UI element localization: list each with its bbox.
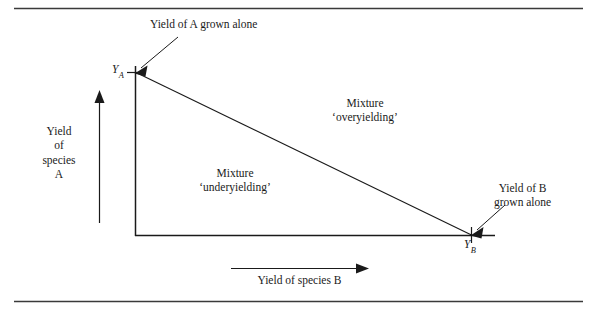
annotation-underyielding-line-2: ‘underyielding’ xyxy=(180,180,290,194)
ya-subscript: A xyxy=(119,71,124,80)
y-axis-label-line-3: species xyxy=(31,153,87,167)
annotation-underyielding-line-1: Mixture xyxy=(180,166,290,180)
pointer-to-yb-arrowhead xyxy=(471,227,484,239)
diagram-canvas xyxy=(0,0,595,314)
x-axis-tick-label-yb: YB xyxy=(464,238,476,254)
figure-page: Yield of A grown alone Yield of B grown … xyxy=(0,0,595,314)
y-axis-label-line-1: Yield xyxy=(31,124,87,138)
annotation-yield-of-b-grown-alone: Yield of B grown alone xyxy=(494,181,551,209)
x-direction-arrowhead xyxy=(356,264,369,274)
annotation-yield-of-b-line-1: Yield of B xyxy=(494,181,551,195)
y-axis-tick-label-ya: YA xyxy=(112,63,124,79)
annotation-yield-of-a-grown-alone: Yield of A grown alone xyxy=(150,18,257,32)
y-axis-label: Yield of species A xyxy=(31,124,87,182)
replacement-series-line xyxy=(136,73,472,236)
y-axis-label-line-2: of xyxy=(31,138,87,152)
yb-subscript: B xyxy=(471,246,476,255)
y-direction-arrowhead xyxy=(95,90,105,103)
annotation-mixture-overyielding: Mixture ‘overyielding’ xyxy=(315,96,415,124)
ya-base: Y xyxy=(112,63,118,75)
y-axis-label-line-4: A xyxy=(31,167,87,181)
annotation-yield-of-b-line-2: grown alone xyxy=(494,195,551,209)
annotation-mixture-underyielding: Mixture ‘underyielding’ xyxy=(180,166,290,194)
annotation-overyielding-line-1: Mixture xyxy=(315,96,415,110)
pointer-to-ya xyxy=(141,37,178,68)
yb-base: Y xyxy=(464,238,470,250)
x-axis-label: Yield of species B xyxy=(222,274,377,288)
pointer-to-ya-arrowhead xyxy=(135,66,148,77)
annotation-overyielding-line-2: ‘overyielding’ xyxy=(315,110,415,124)
